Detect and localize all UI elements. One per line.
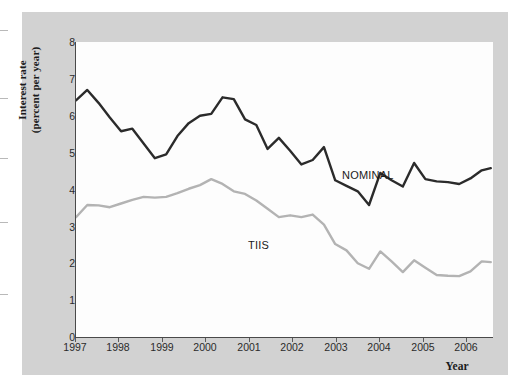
y-axis-title-line2: (percent per year) (29, 30, 42, 150)
y-tick-label: 6 (61, 111, 75, 122)
y-tick-label: 5 (61, 148, 75, 159)
y-tick-label: 1 (61, 295, 75, 306)
x-tick-label: 2006 (446, 342, 486, 353)
x-tick-label: 2003 (316, 342, 356, 353)
x-tick-label: 2001 (229, 342, 269, 353)
y-tick-label: 4 (61, 185, 75, 196)
figure-page: Interest rate (percent per year) 8 7 6 5… (0, 0, 508, 391)
y-axis-title: Interest rate (percent per year) (16, 30, 56, 150)
x-axis-title: Year (422, 360, 492, 372)
series-label-nominal: NOMINAL (342, 169, 394, 181)
page-margin-mark (0, 222, 8, 223)
x-tick-label: 2002 (272, 342, 312, 353)
y-tick-label: 2 (61, 258, 75, 269)
x-tick-label: 1998 (98, 342, 138, 353)
x-tick-label: 1997 (55, 342, 95, 353)
page-margin-mark (0, 158, 8, 159)
series-line-nominal (76, 90, 491, 205)
y-axis-tick-labels: 8 7 6 5 4 3 2 1 0 (56, 12, 75, 375)
x-tick-label: 2004 (359, 342, 399, 353)
chart-canvas (76, 42, 493, 337)
y-axis-title-line1: Interest rate (16, 30, 29, 150)
page-margin-mark (0, 30, 8, 31)
y-tick-label: 7 (61, 74, 75, 85)
page-margin-mark (0, 98, 8, 99)
figure-panel: Interest rate (percent per year) 8 7 6 5… (22, 12, 508, 375)
x-tick-label: 1999 (142, 342, 182, 353)
x-tick-label: 2000 (185, 342, 225, 353)
y-tick-label: 8 (61, 37, 75, 48)
x-tick-label: 2005 (403, 342, 443, 353)
series-label-tiis: TIIS (248, 239, 269, 251)
y-tick-label: 3 (61, 222, 75, 233)
page-margin-mark (0, 294, 8, 295)
plot-area: NOMINAL TIIS (75, 42, 493, 338)
series-line-tiis (76, 179, 491, 276)
